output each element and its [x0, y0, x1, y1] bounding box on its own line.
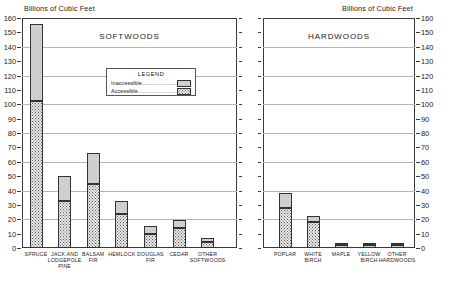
gridline-140	[22, 47, 237, 48]
y-tick-160	[17, 18, 21, 19]
bar-segment-accessible	[173, 228, 186, 248]
y-tick-40	[17, 191, 21, 192]
bar-segment-inaccessible	[173, 220, 186, 228]
y-tick-20	[416, 219, 420, 220]
y-tick-inner-60	[258, 162, 261, 163]
y-tick-140	[416, 47, 420, 48]
legend-leader-dots: ..........................	[138, 88, 182, 94]
y-tick-130	[416, 61, 420, 62]
y-tick-inner-150	[258, 32, 261, 33]
x-axis-label-other-hardwoods: OTHERHARDWOODS	[375, 251, 419, 263]
y-tick-label-120: 120	[421, 72, 433, 81]
y-tick-label-20: 20	[421, 215, 429, 224]
y-tick-inner-130	[239, 61, 242, 62]
softwoods-chart-panel: SOFTWOODS 010203040506070809010011012013…	[22, 18, 237, 248]
bar-yellow-birch	[363, 244, 376, 248]
y-axis-caption-hardwoods: Billions of Cubic Feet	[342, 4, 413, 13]
y-tick-label-130: 130	[4, 57, 16, 66]
y-tick-label-110: 110	[421, 86, 433, 95]
y-tick-inner-100	[258, 104, 261, 105]
y-tick-label-160: 160	[4, 14, 16, 23]
bar-douglas-fir	[144, 226, 157, 248]
gridline-140	[263, 47, 415, 48]
bar-hemlock	[115, 201, 128, 248]
bar-segment-accessible	[30, 101, 43, 248]
x-axis-label-line: FIR	[128, 257, 172, 263]
y-tick-inner-50	[258, 176, 261, 177]
y-tick-0	[17, 248, 21, 249]
gridline-60	[22, 162, 237, 163]
y-tick-inner-50	[239, 176, 242, 177]
x-axis-label-line: SOFTWOODS	[186, 257, 230, 263]
bar-segment-accessible	[87, 184, 100, 248]
y-tick-0	[416, 248, 420, 249]
x-axis-label-line: PINE	[43, 263, 87, 269]
x-axis-label-other-softwoods: OTHERSOFTWOODS	[186, 251, 230, 263]
bar-balsam-fir	[87, 153, 100, 248]
bar-segment-accessible	[144, 234, 157, 248]
y-tick-label-130: 130	[421, 57, 433, 66]
y-tick-inner-120	[258, 76, 261, 77]
y-tick-40	[416, 191, 420, 192]
y-tick-130	[17, 61, 21, 62]
legend-swatch-accessible	[177, 88, 191, 95]
y-tick-label-50: 50	[8, 172, 16, 181]
y-tick-inner-130	[258, 61, 261, 62]
y-tick-label-80: 80	[421, 129, 429, 138]
bar-segment-accessible	[58, 201, 71, 248]
gridline-100	[263, 104, 415, 105]
y-tick-inner-0	[258, 248, 261, 249]
y-tick-inner-90	[239, 119, 242, 120]
y-tick-90	[17, 119, 21, 120]
y-tick-inner-10	[258, 234, 261, 235]
gridline-60	[263, 162, 415, 163]
hardwoods-chart-panel: HARDWOODS 010203040506070809010011012013…	[263, 18, 415, 248]
y-tick-label-30: 30	[421, 201, 429, 210]
y-tick-10	[416, 234, 420, 235]
bar-segment-accessible	[279, 208, 292, 248]
y-tick-label-10: 10	[421, 230, 429, 239]
y-tick-label-140: 140	[4, 43, 16, 52]
y-tick-100	[17, 104, 21, 105]
bar-segment-accessible	[391, 245, 404, 248]
bar-segment-inaccessible	[391, 243, 404, 245]
y-tick-label-100: 100	[421, 100, 433, 109]
y-tick-inner-100	[239, 104, 242, 105]
y-tick-inner-70	[239, 147, 242, 148]
y-tick-10	[17, 234, 21, 235]
bar-segment-inaccessible	[307, 216, 320, 222]
y-tick-60	[416, 162, 420, 163]
y-tick-150	[416, 32, 420, 33]
gridline-80	[22, 133, 237, 134]
bar-white-birch	[307, 216, 320, 248]
y-tick-inner-70	[258, 147, 261, 148]
y-tick-inner-140	[258, 47, 261, 48]
y-tick-label-20: 20	[8, 215, 16, 224]
legend-label-accessible: Accessible	[111, 88, 138, 94]
y-tick-90	[416, 119, 420, 120]
legend-row-accessible: Accessible..........................	[111, 88, 182, 94]
gridline-80	[263, 133, 415, 134]
bar-segment-inaccessible	[201, 238, 214, 242]
y-tick-20	[17, 219, 21, 220]
y-tick-label-120: 120	[4, 72, 16, 81]
bar-segment-accessible	[363, 245, 376, 248]
bar-segment-inaccessible	[58, 176, 71, 200]
y-tick-70	[416, 147, 420, 148]
y-tick-inner-30	[239, 205, 242, 206]
y-tick-inner-110	[239, 90, 242, 91]
y-tick-label-150: 150	[4, 28, 16, 37]
y-tick-label-0: 0	[421, 244, 425, 253]
y-tick-80	[17, 133, 21, 134]
y-tick-110	[416, 90, 420, 91]
bar-segment-inaccessible	[30, 24, 43, 102]
legend-swatch-inaccessible	[177, 80, 191, 87]
bar-spruce	[30, 24, 43, 248]
gridline-100	[22, 104, 237, 105]
y-tick-100	[416, 104, 420, 105]
y-tick-label-160: 160	[421, 14, 433, 23]
y-tick-30	[416, 205, 420, 206]
bar-segment-accessible	[201, 242, 214, 248]
y-tick-inner-150	[239, 32, 242, 33]
y-tick-160	[416, 18, 420, 19]
